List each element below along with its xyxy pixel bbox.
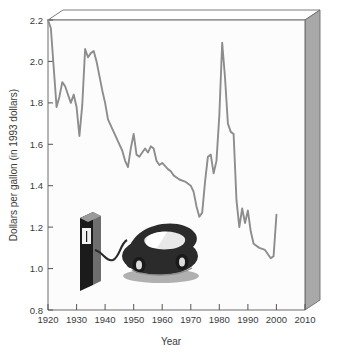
frame-right-panel — [305, 10, 320, 310]
x-tick-label: 1950 — [123, 314, 144, 325]
gas-pump-display-line — [86, 231, 87, 242]
car-wheel-front-hub — [136, 261, 142, 270]
x-tick-label: 1990 — [237, 314, 258, 325]
x-tick-label: 1970 — [180, 314, 201, 325]
x-tick-label: 2010 — [294, 314, 315, 325]
gas-pump-side — [93, 212, 101, 285]
chart-container: 0.8 1.0 1.2 1.4 1.6 1.8 2.0 2.2 1920 193… — [0, 0, 341, 361]
gas-pump-icon — [80, 212, 93, 291]
y-tick-label: 1.0 — [30, 263, 43, 274]
y-tick-label: 1.6 — [30, 139, 43, 150]
x-tick-label: 2000 — [266, 314, 287, 325]
x-tick-label: 1960 — [152, 314, 173, 325]
y-tick-label: 2.2 — [30, 15, 43, 26]
y-tick-label: 1.4 — [30, 180, 43, 191]
x-axis-title: Year — [161, 336, 182, 347]
x-tick-label: 1980 — [209, 314, 230, 325]
gasoline-price-line-chart: 0.8 1.0 1.2 1.4 1.6 1.8 2.0 2.2 1920 193… — [0, 0, 341, 361]
y-tick-label: 1.8 — [30, 97, 43, 108]
x-tick-label: 1940 — [95, 314, 116, 325]
x-tick-label: 1920 — [37, 314, 58, 325]
x-axis-tick-labels: 1920 1930 1940 1950 1960 1970 1980 1990 … — [37, 314, 315, 325]
car-wheel-rear-hub — [179, 258, 185, 267]
y-tick-label: 2.0 — [30, 56, 43, 67]
y-axis-tick-labels: 0.8 1.0 1.2 1.4 1.6 1.8 2.0 2.2 — [30, 15, 43, 316]
frame-top-bevel — [48, 10, 320, 20]
y-tick-label: 1.2 — [30, 222, 43, 233]
x-tick-label: 1930 — [66, 314, 87, 325]
y-axis-title: Dollars per gallon (in 1993 dollars) — [8, 89, 19, 241]
